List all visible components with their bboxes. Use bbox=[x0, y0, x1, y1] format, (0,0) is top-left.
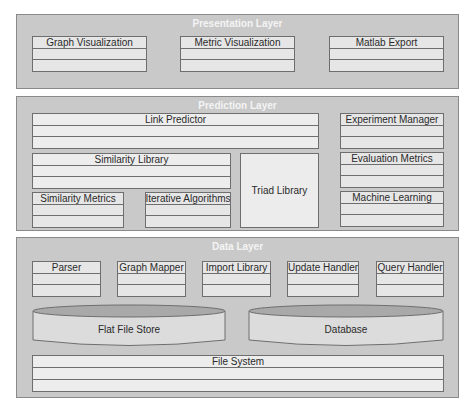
import-library-component: Import Library bbox=[202, 261, 271, 297]
component-label: Triad Library bbox=[252, 185, 308, 196]
similarity-library-component: Similarity Library bbox=[32, 153, 231, 189]
component-label: File System bbox=[33, 356, 443, 367]
metric-visualization-component: Metric Visualization bbox=[180, 36, 295, 72]
update-handler-component: Update Handler bbox=[287, 261, 359, 297]
graph-visualization-component: Graph Visualization bbox=[32, 36, 147, 72]
query-handler-component: Query Handler bbox=[376, 261, 444, 297]
component-label: Machine Learning bbox=[341, 192, 443, 203]
component-label: Query Handler bbox=[377, 262, 443, 273]
matlab-export-component: Matlab Export bbox=[329, 36, 444, 72]
experiment-manager-component: Experiment Manager bbox=[340, 113, 444, 149]
database-cylinder: Database bbox=[248, 304, 444, 348]
component-label: Metric Visualization bbox=[181, 37, 294, 48]
store-label: Flat File Store bbox=[32, 324, 226, 335]
component-label: Link Predictor bbox=[33, 114, 318, 125]
presentation-layer-title: Presentation Layer bbox=[17, 18, 458, 29]
evaluation-metrics-component: Evaluation Metrics bbox=[340, 152, 444, 188]
component-label: Experiment Manager bbox=[341, 114, 443, 125]
file-system-component: File System bbox=[32, 355, 444, 392]
store-label: Database bbox=[248, 324, 444, 335]
component-label: Matlab Export bbox=[330, 37, 443, 48]
component-label: Import Library bbox=[203, 262, 270, 273]
data-layer-title: Data Layer bbox=[17, 241, 458, 252]
parser-component: Parser bbox=[32, 261, 101, 297]
flat-file-store-cylinder: Flat File Store bbox=[32, 304, 226, 348]
component-label: Evaluation Metrics bbox=[341, 153, 443, 164]
component-label: Similarity Metrics bbox=[33, 193, 123, 204]
triad-library-component: Triad Library bbox=[240, 153, 319, 228]
component-label: Parser bbox=[33, 262, 100, 273]
component-label: Graph Visualization bbox=[33, 37, 146, 48]
prediction-layer-title: Prediction Layer bbox=[17, 100, 458, 111]
machine-learning-component: Machine Learning bbox=[340, 191, 444, 227]
component-label: Update Handler bbox=[288, 262, 358, 273]
component-label: Iterative Algorithms bbox=[146, 193, 230, 204]
link-predictor-component: Link Predictor bbox=[32, 113, 319, 149]
component-label: Similarity Library bbox=[33, 154, 230, 165]
similarity-metrics-component: Similarity Metrics bbox=[32, 192, 124, 228]
iterative-algorithms-component: Iterative Algorithms bbox=[145, 192, 231, 228]
component-label: Graph Mapper bbox=[118, 262, 185, 273]
graph-mapper-component: Graph Mapper bbox=[117, 261, 186, 297]
